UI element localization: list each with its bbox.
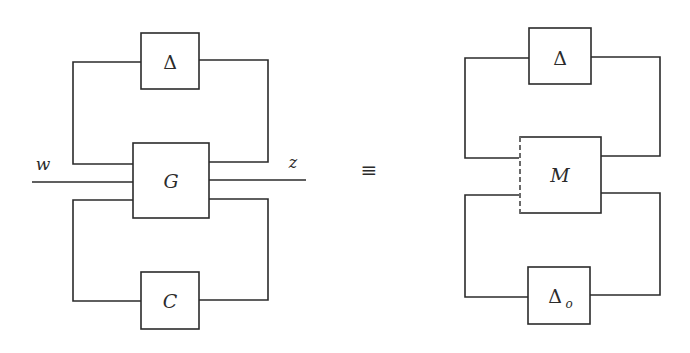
delta-label: Δ bbox=[163, 51, 177, 73]
delta-o-subscript: o bbox=[565, 297, 572, 311]
delta-o-label: Δ bbox=[548, 285, 562, 307]
plant-g-label: G bbox=[163, 170, 178, 192]
plant-m-label: M bbox=[549, 164, 570, 186]
right-lower-loop-left-wire bbox=[465, 195, 528, 297]
controller-c-label: C bbox=[163, 290, 178, 312]
left-diagram: Δ G C w z bbox=[32, 33, 306, 329]
output-signal-z-label: z bbox=[288, 153, 298, 172]
equivalence-symbol: ≡ bbox=[361, 158, 378, 182]
block-diagram: Δ G C w z ≡ Δ M Δ o bbox=[0, 0, 690, 353]
right-delta-label: Δ bbox=[553, 47, 567, 69]
lower-loop-left-wire bbox=[73, 200, 141, 301]
input-signal-w-label: w bbox=[36, 154, 51, 174]
upper-loop-left-wire bbox=[73, 62, 141, 164]
right-diagram: Δ M Δ o bbox=[465, 28, 660, 324]
